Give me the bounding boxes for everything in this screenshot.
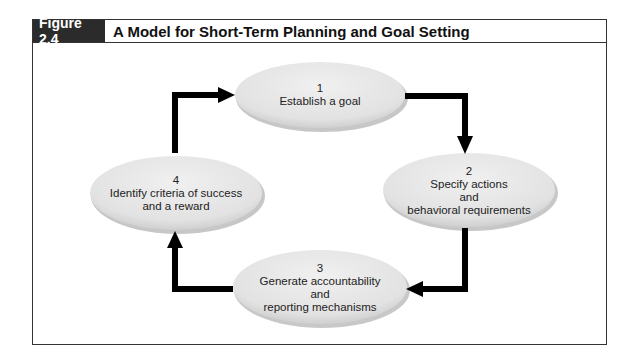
node-2-number: 2 xyxy=(466,165,472,178)
arrowhead-1-to-2 xyxy=(457,136,473,154)
arrow-2-to-3 xyxy=(420,228,465,289)
node-2-line-2: and xyxy=(459,191,478,204)
node-4-line-2: and a reward xyxy=(142,200,209,213)
node-3-line-1: Generate accountability xyxy=(260,275,381,288)
node-4-line-1: Identify criteria of success xyxy=(110,187,242,200)
node-1-line-1: Establish a goal xyxy=(279,95,360,108)
node-3-line-3: reporting mechanisms xyxy=(263,301,376,314)
node-4-label: 4 Identify criteria of success and a rew… xyxy=(91,166,261,220)
arrow-1-to-2 xyxy=(405,96,465,138)
node-3-line-2: and xyxy=(310,288,329,301)
node-2-label: 2 Specify actions and behavioral require… xyxy=(384,160,554,222)
node-2-line-3: behavioral requirements xyxy=(407,204,530,217)
arrow-4-to-1 xyxy=(175,95,220,153)
node-2-line-1: Specify actions xyxy=(430,178,507,191)
node-1-label: 1 Establish a goal xyxy=(240,68,400,122)
node-4-number: 4 xyxy=(173,174,179,187)
node-3-number: 3 xyxy=(317,262,323,275)
arrow-3-to-4 xyxy=(175,246,233,289)
node-1-number: 1 xyxy=(317,82,323,95)
arrowhead-4-to-1 xyxy=(218,87,235,103)
node-3-label: 3 Generate accountability and reporting … xyxy=(234,257,406,319)
